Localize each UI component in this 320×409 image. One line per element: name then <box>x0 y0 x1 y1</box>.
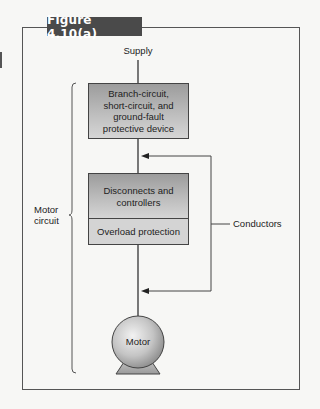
motor-circuit-line-1: Motor <box>34 204 59 215</box>
protective-device-box: Branch-circuit, short-circuit, and groun… <box>88 83 189 139</box>
motor-label: Motor <box>112 336 164 347</box>
protective-device-line-2: short-circuit, and <box>103 100 174 112</box>
protective-device-line-1: Branch-circuit, <box>103 88 174 100</box>
conductors-label: Conductors <box>233 218 282 229</box>
protective-device-line-4: protective device <box>103 123 174 135</box>
disconnects-box: Disconnects and controllers <box>88 173 189 219</box>
overload-protection-box: Overload protection <box>88 218 189 245</box>
motor-circuit-line-2: circuit <box>34 215 59 226</box>
protective-device-line-3: ground-fault <box>103 111 174 123</box>
motor-circuit-brace <box>69 83 76 373</box>
overload-protection-label: Overload protection <box>97 226 180 237</box>
motor-circuit-label: Motor circuit <box>34 204 59 226</box>
disconnects-line-2: controllers <box>103 197 173 209</box>
disconnects-line-1: Disconnects and <box>103 185 173 197</box>
supply-label: Supply <box>110 45 166 56</box>
arrow-top-icon <box>141 153 149 159</box>
arrow-bottom-icon <box>141 288 149 294</box>
